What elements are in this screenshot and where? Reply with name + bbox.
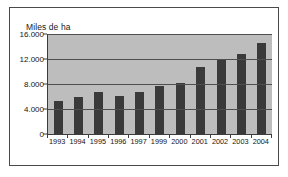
bar[interactable]: [217, 60, 226, 134]
y-axis-tick-label: 4.000: [24, 105, 44, 114]
x-axis-tick-label: 1994: [67, 137, 87, 146]
x-axis-tick: [210, 135, 211, 138]
x-axis-tick-label: 1993: [47, 137, 67, 146]
bar[interactable]: [94, 92, 103, 134]
x-axis-labels: 1993199419951996199719992000200120022003…: [47, 137, 271, 146]
bar[interactable]: [237, 54, 246, 134]
bar[interactable]: [196, 67, 205, 134]
x-axis-tick: [67, 135, 68, 138]
y-axis-tick-label: 16.000: [20, 30, 44, 39]
bar[interactable]: [257, 43, 266, 134]
x-axis-tick-label: 2000: [169, 137, 189, 146]
y-axis-labels: 04.0008.00012.00016.000: [10, 8, 47, 135]
x-axis-tick: [88, 135, 89, 138]
bar[interactable]: [135, 92, 144, 134]
chart-figure: Miles de ha 04.0008.00012.00016.000 1993…: [9, 7, 279, 166]
x-axis-tick-label: 2001: [190, 137, 210, 146]
gridline: [48, 109, 272, 110]
x-axis-tick-label: 2002: [210, 137, 230, 146]
x-axis-tick: [108, 135, 109, 138]
x-axis-tick: [128, 135, 129, 138]
x-axis-tick: [271, 135, 272, 138]
y-axis-tick-label: 8.000: [24, 80, 44, 89]
x-axis-tick: [190, 135, 191, 138]
bar[interactable]: [54, 101, 63, 134]
x-axis-tick-label: 1997: [128, 137, 148, 146]
x-axis-tick-label: 2003: [230, 137, 250, 146]
x-axis-tick: [251, 135, 252, 138]
x-axis-tick-label: 1995: [88, 137, 108, 146]
x-axis-tick: [230, 135, 231, 138]
x-axis-tick-label: 1999: [149, 137, 169, 146]
x-axis-tick: [47, 135, 48, 138]
x-axis-tick: [149, 135, 150, 138]
plot-area: [47, 34, 272, 135]
x-axis-tick-label: 2004: [251, 137, 271, 146]
y-axis-tick-label: 12.000: [20, 55, 44, 64]
bar[interactable]: [115, 96, 124, 134]
gridline: [48, 34, 272, 35]
x-axis-tick: [169, 135, 170, 138]
gridline: [48, 59, 272, 60]
x-axis-tick-label: 1996: [108, 137, 128, 146]
bar[interactable]: [74, 97, 83, 135]
gridline: [48, 84, 272, 85]
